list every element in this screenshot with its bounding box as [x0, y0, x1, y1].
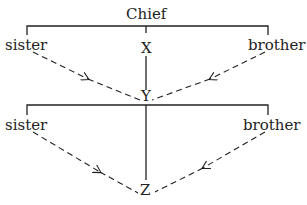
chief-label: Chief: [126, 7, 166, 22]
kinship-lines: [0, 0, 307, 205]
gen2-brother-label: brother: [243, 118, 301, 133]
gen1-sister-label: sister: [5, 38, 47, 53]
gen1-x-label: X: [141, 41, 152, 56]
gen2-sister-label: sister: [5, 118, 47, 133]
gen3-z-label: Z: [140, 183, 150, 198]
gen1-brother-label: brother: [248, 38, 306, 53]
gen2-y-label: Y: [141, 89, 151, 104]
